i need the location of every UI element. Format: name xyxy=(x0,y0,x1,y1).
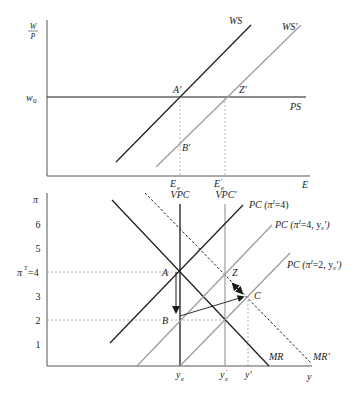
wage-setting-phillips-curve-diagram: W P E w 0 PS WS WS′ A′ Z′ B′ E e E e ′ V… xyxy=(0,0,363,398)
arrow-z-to-c xyxy=(234,285,242,293)
point-b-prime: B′ xyxy=(182,142,191,153)
bottom-panel-phillips-curve: VPC VPC′ π y 6 5 π T =4 3 2 1 MR MR′ PC … xyxy=(17,189,342,383)
point-c: C xyxy=(254,290,261,301)
pc3-prefix: PC (π xyxy=(286,259,312,271)
top-panel-labour-market: W P E w 0 PS WS WS′ A′ Z′ B′ E e E e ′ xyxy=(26,15,310,192)
point-b: B xyxy=(162,315,168,326)
ws-label: WS xyxy=(229,15,242,26)
point-z: Z xyxy=(232,267,238,278)
pc-inflation-2-ye-prime-label: PC (πI=2, ye′) xyxy=(286,259,342,271)
pc2-prefix: PC (π xyxy=(274,219,300,231)
point-a-prime: A′ xyxy=(172,84,182,95)
w0-label: w xyxy=(26,92,33,103)
pc-inflation-4-label: PC (πI=4) xyxy=(248,199,289,211)
mr-prime-label: MR′ xyxy=(312,351,330,362)
ye-tick-sub: e xyxy=(181,375,184,383)
ws-prime-label: WS′ xyxy=(282,21,298,32)
pc-inflation-4-ye-prime-curve xyxy=(137,225,272,366)
y-tick-2: 2 xyxy=(36,315,41,326)
pi-target-label: π xyxy=(17,267,23,278)
mr-label: MR xyxy=(268,351,283,362)
bottom-y-axis-label: π xyxy=(33,194,39,205)
point-a: A xyxy=(161,267,169,278)
mr-curve xyxy=(112,200,269,366)
pc2-mid: =4, y xyxy=(301,219,322,230)
vpc-label: VPC xyxy=(171,189,190,200)
top-y-axis-label-numerator: W xyxy=(30,22,38,31)
ws-prime-curve xyxy=(156,25,301,167)
ee-prime-tick-label: E xyxy=(213,178,220,189)
ps-label: PS xyxy=(289,101,301,112)
pc-inflation-4-ye-prime-label: PC (πI=4, ye′) xyxy=(274,219,330,231)
bottom-x-axis-label: y xyxy=(306,371,312,382)
pc3-end: ′) xyxy=(336,259,342,271)
pi-target-value: =4 xyxy=(28,267,39,278)
top-y-axis-label-denominator: P xyxy=(30,32,36,41)
y-tick-3: 3 xyxy=(36,291,41,302)
y-tick-6: 6 xyxy=(36,219,41,230)
y-prime-tick-label: y′ xyxy=(244,369,252,380)
vpc-prime-label: VPC′ xyxy=(215,189,237,200)
point-z-prime: Z′ xyxy=(239,84,248,95)
ye-prime-tick-sub: e xyxy=(225,375,228,383)
w0-subscript: 0 xyxy=(33,97,37,105)
pc2-end: ′) xyxy=(324,219,330,231)
y-tick-1: 1 xyxy=(36,339,41,350)
top-x-axis-label: E xyxy=(301,179,308,190)
pc-inflation-4-suffix: =4) xyxy=(275,199,289,211)
arrow-b-to-c xyxy=(180,297,243,316)
y-tick-5: 5 xyxy=(36,243,41,254)
pc-inflation-4-prefix: PC (π xyxy=(248,199,274,211)
pc3-mid: =2, y xyxy=(313,259,334,270)
ee-tick-label: E xyxy=(169,178,176,189)
